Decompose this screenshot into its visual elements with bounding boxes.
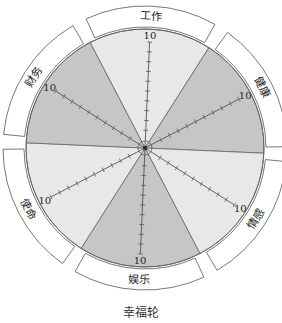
hub-dot bbox=[143, 146, 147, 150]
scale-max-label: 10 bbox=[134, 255, 147, 266]
segment-label: 工作 bbox=[139, 9, 162, 23]
chart-caption: 幸福轮 bbox=[0, 303, 282, 320]
segment-label: 娱乐 bbox=[128, 272, 151, 287]
happiness-wheel: 工作健康情感娱乐使命财务 101010101010 bbox=[0, 0, 282, 323]
scale-max-label: 10 bbox=[144, 30, 157, 41]
